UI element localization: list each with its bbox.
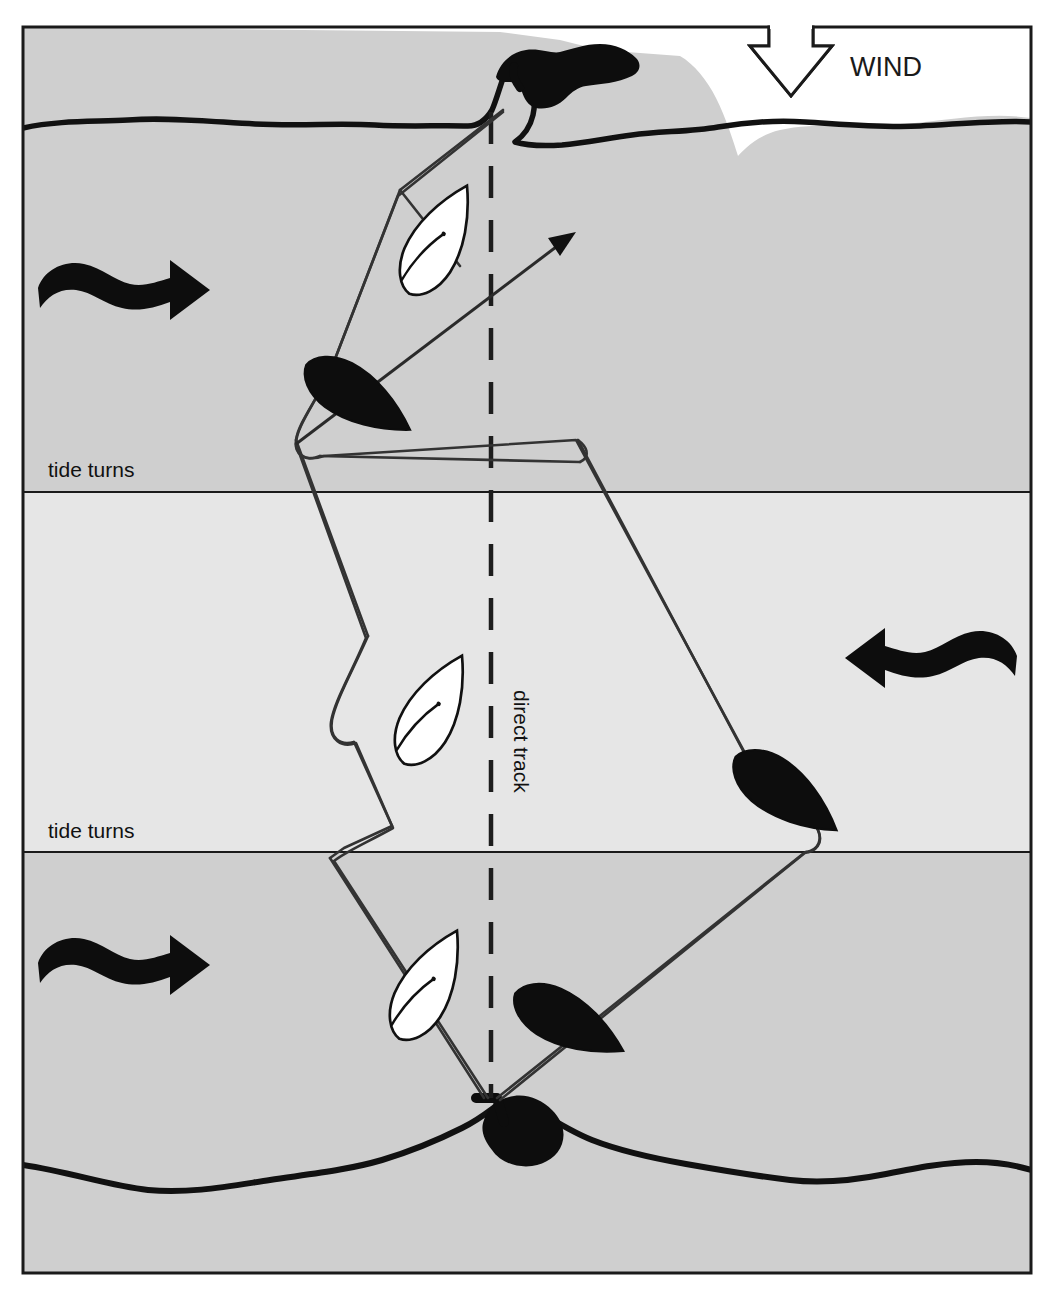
tidal-tacking-diagram: tide turns tide turns direct track WIND [0,0,1054,1299]
wind-label: WIND [850,52,922,82]
tide-turns-label-upper: tide turns [48,458,134,481]
diagram-canvas: tide turns tide turns direct track WIND [0,0,1054,1299]
tide-turns-label-lower: tide turns [48,819,134,842]
direct-track-label: direct track [510,690,533,793]
